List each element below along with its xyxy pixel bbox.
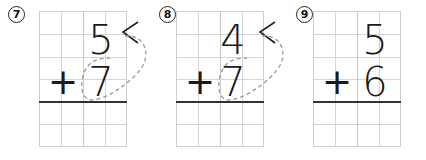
bottom-digit: 7 <box>86 62 116 102</box>
top-digit: 4 <box>218 20 248 60</box>
problem-number-badge: 8 <box>159 6 176 23</box>
problem-number-badge: 7 <box>8 6 25 23</box>
plus-sign: + <box>322 64 348 100</box>
problem-8: 8 4 + 7 <box>137 0 277 160</box>
top-digit: 5 <box>86 20 116 60</box>
plus-sign: + <box>48 64 74 100</box>
plus-sign: + <box>185 64 211 100</box>
problem-7: 7 5 + 7 <box>0 0 140 160</box>
bottom-digit: 7 <box>218 62 248 102</box>
bottom-digit: 6 <box>360 62 390 102</box>
top-digit: 5 <box>360 20 390 60</box>
problem-9: 9 5 + 6 <box>274 0 414 160</box>
problem-number-badge: 9 <box>296 6 313 23</box>
